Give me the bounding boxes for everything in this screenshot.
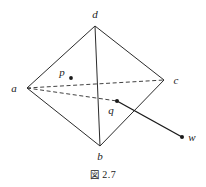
- caption-figure-number: 2.7: [102, 169, 116, 180]
- vertex-label-c: c: [174, 74, 179, 86]
- edge-a-d: [27, 26, 95, 88]
- point-marker-w: [180, 135, 184, 139]
- point-label-p: p: [58, 66, 65, 78]
- point-label-w: w: [188, 131, 196, 143]
- vertex-label-d: d: [92, 8, 98, 20]
- vertex-label-a: a: [11, 82, 17, 94]
- edge-d-b: [95, 26, 100, 146]
- vertex-label-b: b: [97, 150, 103, 162]
- point-marker-q: [115, 99, 119, 103]
- edge-d-c: [95, 26, 164, 80]
- edge-a-c-dashed: [27, 80, 164, 88]
- caption-figure-symbol: 図: [90, 169, 100, 180]
- point-marker-p: [69, 76, 73, 80]
- point-label-q: q: [108, 104, 114, 116]
- figure-container: a d c b p q w 図2.7: [0, 0, 206, 187]
- tetrahedron-diagram: a d c b p q w: [0, 0, 206, 187]
- figure-caption: 図2.7: [0, 167, 206, 181]
